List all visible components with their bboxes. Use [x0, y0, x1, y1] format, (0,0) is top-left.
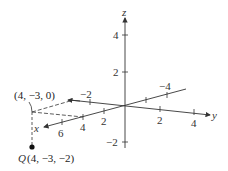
leader-line	[29, 102, 32, 112]
x-tick-label-6: 6	[58, 127, 64, 139]
3d-axes-diagram: z 4 2 −2 y 2 4 −2 x 2 4 6 −4 (4, −3, 0) …	[0, 0, 228, 171]
x-tick-label-2: 2	[101, 115, 107, 127]
dashed-line-to-y	[32, 101, 70, 112]
y-tick-label-neg2: −2	[80, 88, 92, 100]
y-axis	[70, 100, 210, 115]
x-axis	[44, 89, 186, 127]
point-label-projection: (4, −3, 0)	[14, 89, 55, 102]
point-q	[29, 144, 34, 149]
x-tick-label-neg4: −4	[159, 80, 171, 92]
z-tick-label-2: 2	[113, 66, 119, 78]
z-axis-label: z	[121, 6, 127, 18]
y-axis-label: y	[211, 109, 217, 121]
x-tick-label-4: 4	[80, 121, 86, 133]
point-q-letter: Q	[18, 152, 26, 164]
dashed-line-to-x	[32, 112, 83, 117]
y-tick-label-2: 2	[157, 114, 163, 126]
x-axis-label: x	[33, 122, 39, 134]
z-tick-label-4: 4	[113, 29, 119, 41]
y-tick-label-4: 4	[191, 117, 197, 129]
point-q-label: (4, −3, −2)	[27, 152, 75, 165]
z-tick-label-neg2: −2	[106, 136, 118, 148]
